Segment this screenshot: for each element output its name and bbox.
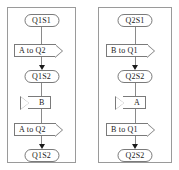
send-label: B to Q1 — [111, 47, 138, 55]
connector-l3 — [41, 83, 42, 96]
receive-label: A — [134, 99, 140, 107]
arrow-tip-fill-icon — [147, 45, 154, 57]
state-node[interactable]: Q1S1 — [24, 14, 59, 27]
arrow-tip-fill-icon — [147, 124, 154, 136]
arrow-tip-fill-icon — [55, 124, 62, 136]
right-column-body: Q2S1 B to Q1 Q2S2 A B to Q1 Q2S2 — [99, 8, 171, 162]
left-column-body: Q1S1 A to Q2 Q1S2 B A to Q2 Q1S2 — [8, 8, 75, 162]
send-message-node[interactable]: B to Q1 — [106, 123, 148, 136]
connector-r3 — [135, 83, 136, 96]
chevron-notch-fill-icon — [21, 97, 29, 109]
send-label: B to Q1 — [111, 126, 138, 134]
state-node[interactable]: Q1S2 — [24, 70, 59, 83]
connector-l1 — [41, 27, 42, 44]
send-label: A to Q2 — [19, 47, 46, 55]
diagram-canvas: Q1S1 A to Q2 Q1S2 B A to Q2 Q1S2 — [0, 0, 179, 170]
connector-l4 — [41, 109, 42, 123]
send-message-node[interactable]: A to Q2 — [14, 44, 56, 57]
send-message-node[interactable]: A to Q2 — [14, 123, 56, 136]
send-label: A to Q2 — [19, 126, 46, 134]
arrow-tip-fill-icon — [55, 45, 62, 57]
receive-label: B — [39, 99, 45, 107]
send-message-node[interactable]: B to Q1 — [106, 44, 148, 57]
state-node[interactable]: Q2S2 — [117, 149, 152, 162]
receive-message-node[interactable]: A — [123, 96, 146, 109]
chevron-notch-fill-icon — [116, 97, 124, 109]
state-node[interactable]: Q2S2 — [117, 70, 152, 83]
process-frame-right: Q2S1 B to Q1 Q2S2 A B to Q1 Q2S2 — [98, 7, 172, 163]
connector-r1 — [135, 27, 136, 44]
connector-r4 — [135, 109, 136, 123]
state-node[interactable]: Q1S2 — [24, 149, 59, 162]
process-frame-left: Q1S1 A to Q2 Q1S2 B A to Q2 Q1S2 — [7, 7, 76, 163]
receive-message-node[interactable]: B — [28, 96, 51, 109]
state-node[interactable]: Q2S1 — [117, 14, 152, 27]
